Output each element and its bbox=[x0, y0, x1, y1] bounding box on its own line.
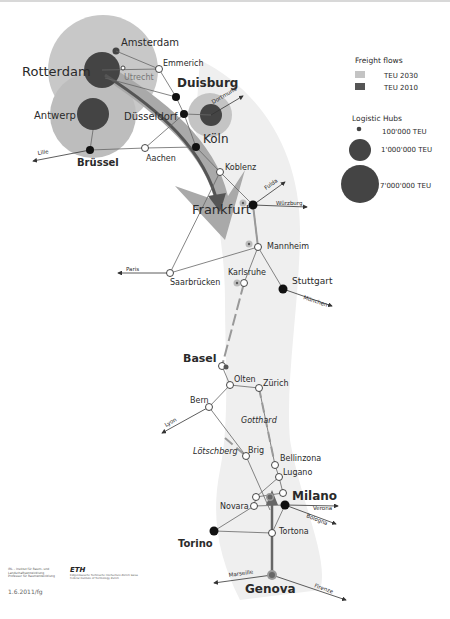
label-torino: Torino bbox=[178, 538, 213, 549]
label-karlsruhe: Karlsruhe bbox=[228, 268, 266, 277]
label-tortona: Tortona bbox=[278, 527, 309, 536]
label-lugano: Lugano bbox=[283, 468, 312, 477]
dir-verona: Verona bbox=[313, 505, 332, 511]
label-gotthard: Gotthard bbox=[241, 416, 278, 425]
label-amsterdam: Amsterdam bbox=[121, 37, 179, 48]
label-emmerich: Emmerich bbox=[163, 59, 204, 68]
dir-munchen: München bbox=[303, 294, 329, 308]
dir-lille: Lille bbox=[37, 148, 50, 156]
legend-hub-medium-label: 1'000'000 TEU bbox=[381, 146, 432, 154]
institute-logo-text: IRL – Institut für Raum- und Landschafts… bbox=[8, 568, 58, 579]
label-lotschberg: Lötschberg bbox=[193, 447, 238, 456]
figure-code: 1.6.2011/fg bbox=[8, 588, 43, 595]
legend-hub-large-label: 7'000'000 TEU bbox=[380, 182, 431, 190]
label-basel: Basel bbox=[183, 352, 217, 365]
legend-hub-small-label: 100'000 TEU bbox=[382, 128, 427, 136]
label-brig: Brig bbox=[248, 446, 264, 455]
label-stuttgart: Stuttgart bbox=[292, 276, 333, 286]
label-olten: Olten bbox=[234, 375, 256, 384]
dir-lyon: Lyon bbox=[164, 416, 179, 429]
eth-subtitle: Eidgenössische Technische Hochschule Zür… bbox=[70, 574, 140, 580]
label-koblenz: Koblenz bbox=[225, 163, 256, 172]
label-antwerp: Antwerp bbox=[34, 110, 76, 121]
legend-hub-large bbox=[341, 165, 379, 203]
legend-hub-small bbox=[357, 127, 362, 132]
label-dusseldorf: Düsseldorf bbox=[124, 111, 178, 122]
label-rotterdam: Rotterdam bbox=[22, 64, 91, 79]
label-utrecht: Utrecht bbox=[124, 73, 154, 82]
dir-wurzburg: Würzburg bbox=[276, 200, 303, 207]
label-aachen: Aachen bbox=[146, 154, 176, 163]
antwerp-2010-hub bbox=[77, 98, 109, 130]
label-saarbrucken: Saarbrücken bbox=[170, 278, 220, 287]
label-novara: Novara bbox=[220, 502, 249, 511]
legend-flows-title: Freight flows bbox=[355, 56, 403, 65]
dir-paris: Paris bbox=[126, 266, 139, 272]
legend-2010-swatch bbox=[355, 83, 365, 90]
label-zurich: Zürich bbox=[263, 379, 289, 388]
label-koln: Köln bbox=[203, 132, 229, 146]
label-mannheim: Mannheim bbox=[267, 242, 309, 251]
legend: Freight flows TEU 2030 TEU 2010 Logistic… bbox=[341, 56, 432, 203]
legend-2030-swatch bbox=[355, 71, 365, 78]
label-bellinzona: Bellinzona bbox=[280, 454, 321, 463]
legend-2030-label: TEU 2030 bbox=[383, 72, 418, 80]
label-bern: Bern bbox=[190, 396, 209, 405]
label-frankfurt: Frankfurt bbox=[192, 202, 251, 217]
label-brussel: Brüssel bbox=[77, 157, 119, 168]
label-milano: Milano bbox=[292, 489, 337, 503]
legend-2010-label: TEU 2010 bbox=[383, 84, 418, 92]
eth-logo: ETH bbox=[70, 566, 85, 574]
label-genova: Genova bbox=[245, 582, 296, 596]
corridor-map: Amsterdam Rotterdam Utrecht Emmerich Dui… bbox=[0, 0, 450, 619]
legend-hubs-title: Logistic Hubs bbox=[352, 114, 402, 123]
legend-hub-medium bbox=[349, 139, 371, 161]
